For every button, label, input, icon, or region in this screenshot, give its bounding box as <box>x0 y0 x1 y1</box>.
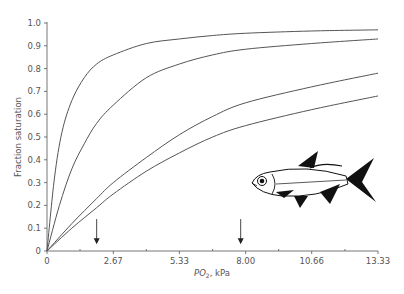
axes <box>47 22 378 251</box>
x-tick-label: 8.00 <box>236 256 255 266</box>
y-axis-title: Fraction saturation <box>13 97 23 177</box>
curves <box>47 30 378 251</box>
y-tick-label: 1.0 <box>27 18 41 28</box>
fish-filament <box>310 164 342 168</box>
x-axis-title-unit: , kPa <box>210 268 230 278</box>
y-tick-label: 0.2 <box>27 200 41 210</box>
x-axis-title: PO2, kPa <box>194 268 230 279</box>
y-tick-label: 0.1 <box>27 223 41 233</box>
x-tick-label: 2.67 <box>104 256 123 266</box>
y-tick-label: 0.4 <box>27 155 41 165</box>
x-tick-label: 10.66 <box>300 256 324 266</box>
fish-illustration <box>252 151 376 208</box>
x-tick-label: 0 <box>44 256 49 266</box>
x-axis-title-po: PO <box>194 268 206 278</box>
x-ticks: 02.675.338.0010.6613.33 <box>44 249 390 266</box>
y-tick-label: 0.7 <box>27 86 41 96</box>
y-tick-label: 0 <box>36 246 41 256</box>
y-tick-label: 0.6 <box>27 109 41 119</box>
y-tick-label: 0.9 <box>27 41 41 51</box>
x-tick-label: 13.33 <box>366 256 390 266</box>
x-tick-label: 5.33 <box>170 256 189 266</box>
arrows <box>94 219 244 244</box>
series-curve-1 <box>47 30 378 251</box>
fish-pelvic-fin <box>294 196 308 208</box>
fish-pupil <box>260 179 265 184</box>
y-tick-label: 0.3 <box>27 178 41 188</box>
y-tick-label: 0.5 <box>27 132 41 142</box>
y-ticks: 00.10.20.30.40.50.60.70.80.91.0 <box>27 18 47 256</box>
oxygen-saturation-chart: 00.10.20.30.40.50.60.70.80.91.0 02.675.3… <box>0 0 404 294</box>
arrow-down-icon <box>238 219 244 244</box>
y-tick-label: 0.8 <box>27 64 41 74</box>
arrow-down-icon <box>94 219 100 244</box>
fish-tail <box>346 158 376 202</box>
